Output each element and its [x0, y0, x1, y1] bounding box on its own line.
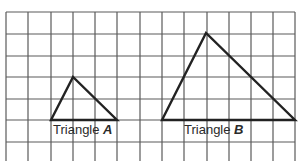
triangle-b-label: Triangle B [184, 122, 244, 137]
grid [6, 12, 295, 161]
triangle-a-letter: A [103, 122, 112, 137]
grid-diagram [0, 0, 300, 161]
triangle-a-label-prefix: Triangle [53, 122, 103, 137]
triangle-b-label-prefix: Triangle [184, 122, 234, 137]
triangle-b-letter: B [234, 122, 243, 137]
triangle-a-label: Triangle A [53, 122, 113, 137]
